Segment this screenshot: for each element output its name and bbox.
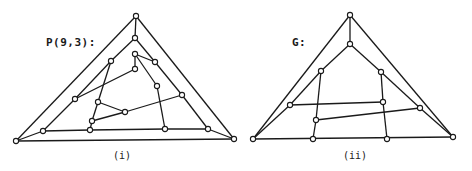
graph-title-i: P(9,3): bbox=[46, 36, 96, 49]
edge-I-C bbox=[420, 108, 453, 137]
vertex-D bbox=[132, 35, 137, 40]
vertex-L bbox=[179, 92, 184, 97]
edge-H-J bbox=[75, 69, 135, 99]
edge-K-M bbox=[98, 102, 125, 112]
edge-B-C bbox=[253, 137, 453, 139]
graph-drawings bbox=[0, 0, 472, 171]
vertex-K bbox=[310, 136, 315, 141]
vertex-G bbox=[287, 102, 292, 107]
vertex-K bbox=[95, 99, 100, 104]
edge-A-B bbox=[16, 16, 136, 141]
vertex-B bbox=[250, 136, 255, 141]
edge-E-G bbox=[290, 71, 321, 105]
vertex-J bbox=[313, 117, 318, 122]
vertex-F bbox=[378, 69, 383, 74]
edge-B-C bbox=[16, 139, 234, 141]
vertex-F bbox=[132, 51, 137, 56]
edge-M-L bbox=[125, 95, 182, 112]
edge-P-Q bbox=[90, 129, 165, 130]
edge-A-C bbox=[350, 15, 453, 137]
vertex-C bbox=[231, 136, 236, 141]
edge-J-O bbox=[43, 99, 75, 131]
edge-G-H bbox=[290, 102, 383, 105]
vertex-P bbox=[87, 127, 92, 132]
vertex-I bbox=[417, 105, 422, 110]
vertex-R bbox=[205, 126, 210, 131]
edge-D-F bbox=[350, 44, 381, 72]
edge-D-E bbox=[321, 44, 350, 71]
vertex-I bbox=[154, 83, 159, 88]
caption-ii: (ii) bbox=[343, 150, 367, 161]
graph-title-ii: G: bbox=[292, 36, 306, 49]
edge-A-B bbox=[253, 15, 350, 139]
edge-L-R bbox=[182, 95, 208, 129]
vertex-C bbox=[450, 134, 455, 139]
vertex-Q bbox=[162, 126, 167, 131]
graph-ii bbox=[250, 12, 455, 141]
edge-F-H bbox=[381, 72, 383, 102]
vertex-J bbox=[72, 96, 77, 101]
edge-E-J bbox=[316, 71, 321, 120]
edge-A-D bbox=[135, 16, 136, 38]
vertex-E bbox=[108, 58, 113, 63]
edge-G-L bbox=[155, 62, 182, 95]
vertex-A bbox=[347, 12, 352, 17]
graph-i bbox=[13, 13, 236, 143]
edge-D-E bbox=[111, 38, 135, 61]
figure: P(9,3): (i) G: (ii) bbox=[0, 0, 472, 171]
caption-i: (i) bbox=[113, 150, 131, 161]
vertex-L bbox=[384, 136, 389, 141]
vertex-D bbox=[347, 41, 352, 46]
vertex-N bbox=[89, 118, 94, 123]
vertex-A bbox=[133, 13, 138, 18]
vertex-O bbox=[40, 128, 45, 133]
edge-O-P bbox=[43, 130, 90, 131]
edge-J-I bbox=[316, 108, 420, 120]
vertex-G bbox=[152, 59, 157, 64]
vertex-H bbox=[380, 99, 385, 104]
vertex-H bbox=[132, 66, 137, 71]
edge-N-M bbox=[92, 112, 125, 121]
edge-I-Q bbox=[157, 86, 165, 129]
edge-G-B bbox=[253, 105, 290, 139]
vertex-B bbox=[13, 138, 18, 143]
edge-H-L bbox=[383, 102, 387, 139]
vertex-E bbox=[318, 68, 323, 73]
vertex-M bbox=[122, 109, 127, 114]
